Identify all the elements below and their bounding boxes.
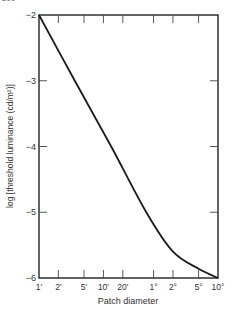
x-tick-label: 1' — [36, 282, 43, 292]
y-tick-label: −6 — [26, 273, 36, 283]
x-tick-label: 10° — [212, 282, 225, 292]
plot-frame — [39, 15, 218, 278]
threshold-luminance-chart: 1'2'5'10'20'1°2°5°10° −2−3−4−5−6 Patch d… — [0, 0, 231, 315]
x-tick-label: 2' — [55, 282, 62, 292]
y-axis-ticks: −2−3−4−5−6 — [26, 10, 218, 283]
y-axis-label: log [threshold luminance (cd/m²)] — [5, 84, 15, 208]
threshold-curve — [39, 15, 218, 278]
x-axis-label: Patch diameter — [98, 296, 159, 306]
x-tick-label: 5° — [195, 282, 203, 292]
x-tick-label: 2° — [169, 282, 177, 292]
x-tick-label: 5' — [81, 282, 88, 292]
x-tick-label: 20' — [117, 282, 128, 292]
x-axis-ticks: 1'2'5'10'20'1°2°5°10° — [36, 15, 225, 292]
y-tick-label: −5 — [26, 207, 36, 217]
y-tick-label: −3 — [26, 76, 36, 86]
x-tick-label: 10' — [98, 282, 109, 292]
x-tick-label: 1° — [149, 282, 157, 292]
y-tick-label: −4 — [26, 142, 36, 152]
y-tick-label: −2 — [26, 10, 36, 20]
